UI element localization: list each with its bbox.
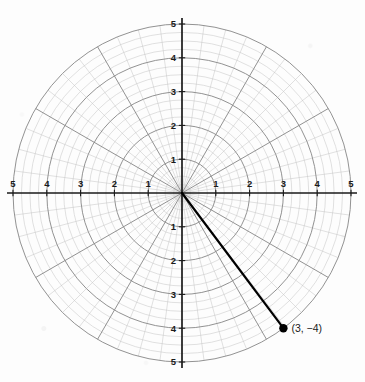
grid-radial-minor bbox=[182, 193, 226, 356]
grid-radial-minor bbox=[63, 74, 183, 194]
y-tick-label: 1 bbox=[171, 221, 177, 232]
grid-radial-major bbox=[98, 47, 183, 193]
polar-grid-canvas: 54321123455432112345(3, −4) bbox=[0, 0, 365, 382]
grid-radial-minor bbox=[160, 193, 182, 361]
grid-radial-minor bbox=[26, 193, 182, 258]
grid-radial-minor bbox=[182, 193, 345, 237]
y-tick-label: 3 bbox=[171, 289, 176, 300]
y-tick-label: 2 bbox=[171, 120, 176, 131]
y-tick-label: 5 bbox=[171, 18, 177, 29]
grid-radial-major bbox=[36, 109, 182, 194]
data-point-label: (3, −4) bbox=[291, 322, 322, 334]
grid-radial-major bbox=[182, 47, 267, 193]
x-tick-label: 1 bbox=[213, 178, 219, 189]
y-tick-label: 4 bbox=[171, 52, 177, 63]
grid-radial-minor bbox=[182, 171, 350, 193]
x-tick-label: 5 bbox=[10, 178, 16, 189]
x-tick-label: 4 bbox=[44, 178, 50, 189]
x-tick-label: 3 bbox=[78, 178, 83, 189]
x-tick-label: 2 bbox=[112, 178, 117, 189]
y-tick-label: 4 bbox=[171, 323, 177, 334]
grid-radial-minor bbox=[14, 171, 182, 193]
grid-radial-minor bbox=[182, 30, 226, 193]
y-tick-label: 5 bbox=[171, 356, 177, 367]
grid-radial-minor bbox=[14, 193, 182, 215]
grid-radial-major bbox=[98, 193, 183, 339]
y-tick-label: 2 bbox=[171, 255, 176, 266]
y-tick-label: 3 bbox=[171, 86, 176, 97]
grid-radial-major bbox=[182, 193, 267, 339]
y-tick-label: 1 bbox=[171, 154, 177, 165]
polar-plot: 54321123455432112345(3, −4) bbox=[0, 0, 365, 382]
grid-radial-minor bbox=[182, 25, 204, 193]
grid-radial-major bbox=[36, 193, 182, 278]
grid-radial-minor bbox=[19, 193, 182, 237]
data-point[interactable] bbox=[279, 324, 287, 332]
grid-radial-minor bbox=[182, 74, 302, 194]
grid-radial-minor bbox=[63, 193, 183, 313]
grid-radial-minor bbox=[160, 25, 182, 193]
grid-radial-minor bbox=[182, 149, 345, 193]
grid-radial-minor bbox=[182, 193, 302, 313]
grid-radial-minor bbox=[182, 193, 247, 349]
x-tick-label: 5 bbox=[348, 178, 354, 189]
grid-radial-minor bbox=[182, 37, 247, 193]
grid-radial-major bbox=[182, 193, 328, 278]
x-tick-label: 2 bbox=[247, 178, 252, 189]
x-tick-label: 4 bbox=[315, 178, 321, 189]
grid-radial-major bbox=[182, 109, 328, 194]
x-tick-label: 1 bbox=[146, 178, 152, 189]
grid-radial-minor bbox=[182, 193, 350, 215]
x-tick-label: 3 bbox=[281, 178, 286, 189]
